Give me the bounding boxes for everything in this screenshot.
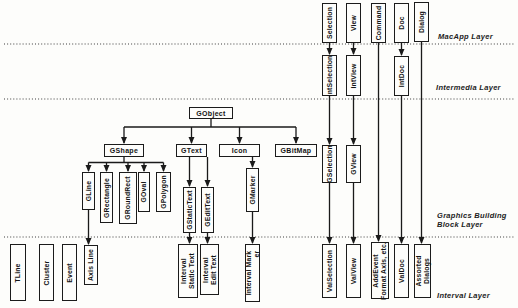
node-label-gshape: GShape [105, 145, 143, 156]
node-label-goval: GOval [140, 181, 148, 202]
node-dialog: Dialog [414, 2, 429, 42]
node-gline: GLine [82, 172, 95, 210]
layer-label-graphics: Graphics BuildingBlock Layer [437, 211, 507, 229]
node-groundrect: GRoundRect [119, 172, 137, 224]
node-int-view: IntView [346, 55, 361, 96]
node-gshape: GShape [104, 144, 144, 157]
node-axis-line: Axis Line [84, 245, 98, 285]
node-label-val-selection: ValSelection [326, 250, 334, 292]
node-label-gpolygon: GPolygon [160, 175, 168, 209]
node-int-selection: IntSelection [322, 55, 337, 96]
node-label-grectangle: GRectangle [103, 178, 111, 218]
node-label-gstatictext: GStaticText [186, 190, 194, 229]
node-label-selection: Selection [326, 7, 334, 39]
node-label-gedittext: GEditText [204, 193, 212, 226]
node-selection: Selection [322, 3, 337, 43]
node-label-gline: GLine [85, 181, 93, 201]
node-label-addevent-format-axis: AddEventFormat Axis, etc. [372, 242, 387, 300]
node-label-view: View [350, 15, 358, 31]
node-label-icon: Icon [220, 145, 259, 156]
node-int-doc: IntDoc [394, 56, 409, 96]
node-label-interval-marker: Interval Marker [245, 251, 260, 296]
node-val-selection: ValSelection [322, 244, 337, 298]
node-assorted-dialogs: AssortedDialogs [414, 244, 431, 298]
node-label-int-selection: IntSelection [326, 55, 334, 96]
node-label-gview: GView [350, 153, 358, 175]
node-label-dialog: Dialog [418, 11, 426, 33]
node-gselection: GSelection [322, 145, 337, 183]
node-label-val-doc: ValDoc [398, 259, 406, 283]
node-label-gobject: GObject [190, 108, 232, 118]
node-gmarker: GMarker [246, 168, 259, 212]
layer-label-interval: Interval Layer [437, 291, 490, 300]
node-label-interval-edit-text: IntervalEdit Text [202, 255, 217, 285]
node-label-gbitmap: GBitMap [276, 145, 316, 156]
node-gpolygon: GPolygon [156, 172, 171, 212]
node-event: Event [62, 244, 77, 301]
node-cluster: Cluster [39, 244, 54, 301]
node-label-gselection: GSelection [326, 145, 334, 183]
layer-label-intermedia: Intermedia Layer [436, 83, 501, 92]
node-addevent-format-axis: AddEventFormat Axis, etc. [371, 242, 389, 299]
node-label-event: Event [66, 263, 74, 283]
node-label-doc: Doc [398, 16, 406, 29]
node-label-interval-static-text: IntervalStatic Text [180, 253, 195, 289]
node-label-gtext: GText [177, 145, 206, 156]
node-gview: GView [346, 145, 361, 183]
node-label-int-doc: IntDoc [398, 65, 406, 87]
node-label-axis-line: Axis Line [87, 249, 95, 281]
node-icon: Icon [219, 144, 260, 157]
node-interval-marker: Interval Marker [245, 244, 260, 302]
node-doc: Doc [394, 3, 409, 43]
node-label-command: Command [375, 6, 383, 41]
node-tline: TLine [10, 244, 26, 301]
node-label-cluster: Cluster [43, 260, 51, 285]
node-label-gmarker: GMarker [249, 176, 257, 205]
node-interval-static-text: IntervalStatic Text [178, 244, 198, 298]
node-view: View [346, 3, 361, 43]
node-val-view: ValView [346, 244, 361, 298]
node-grectangle: GRectangle [100, 172, 113, 223]
layer-label-macapp: MacApp Layer [438, 32, 493, 41]
node-interval-edit-text: IntervalEdit Text [200, 244, 219, 295]
node-gtext: GText [176, 144, 207, 157]
node-label-assorted-dialogs: AssortedDialogs [415, 255, 430, 286]
node-gbitmap: GBitMap [275, 144, 317, 157]
diagram-canvas: SelectionViewCommandDocDialogIntSelectio… [0, 0, 518, 308]
node-label-groundrect: GRoundRect [124, 176, 132, 220]
node-label-int-view: IntView [350, 63, 358, 88]
node-gobject: GObject [189, 107, 233, 119]
node-command: Command [371, 3, 386, 43]
node-gstatictext: GStaticText [183, 187, 196, 233]
node-goval: GOval [138, 172, 150, 212]
node-gedittext: GEditText [201, 187, 214, 233]
node-label-tline: TLine [14, 263, 22, 282]
node-val-doc: ValDoc [394, 244, 409, 298]
node-label-val-view: ValView [350, 258, 358, 285]
